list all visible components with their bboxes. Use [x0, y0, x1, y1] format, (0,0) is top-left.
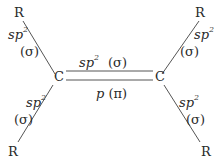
atom-carbon-right: C	[155, 70, 165, 83]
label-sp2-top-left: sp2	[8, 28, 28, 41]
label-sigma-top-left: (σ)	[20, 45, 39, 58]
atom-r-bottom-right: R	[201, 145, 211, 158]
label-sigma-double-bond: (σ)	[108, 56, 127, 69]
atom-r-bottom-left: R	[8, 145, 18, 158]
label-sp2-bottom-left: sp2	[26, 96, 46, 109]
label-sigma-bottom-left: (σ)	[14, 113, 33, 126]
bond-lines	[0, 0, 218, 164]
label-sigma-bottom-right: (σ)	[186, 113, 205, 126]
label-sp2-top-right: sp2	[194, 28, 214, 41]
label-p-pi-double-bond: p (π)	[96, 87, 127, 100]
label-sigma-top-right: (σ)	[180, 45, 199, 58]
label-sp2-bottom-right: sp2	[179, 96, 199, 109]
label-sp2-double-bond: sp2	[79, 56, 99, 69]
atom-carbon-left: C	[54, 70, 64, 83]
atom-r-top-right: R	[195, 6, 205, 19]
atom-r-top-left: R	[14, 6, 24, 19]
